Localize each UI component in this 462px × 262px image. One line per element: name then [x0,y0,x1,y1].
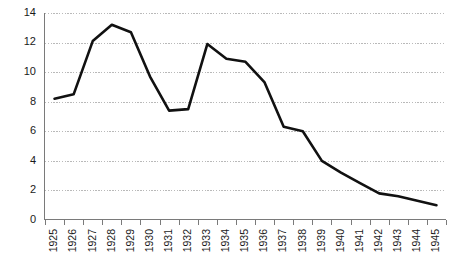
x-axis-tick-label: 1937 [276,229,288,253]
y-axis-tick-label: 14 [24,6,36,18]
x-axis-tick-label: 1941 [353,229,365,253]
y-axis-tick-label: 8 [30,95,36,107]
x-axis-tick-label: 1929 [124,229,136,253]
x-axis-tick-labels: 1925192619271928192919301931193219331934… [47,229,441,253]
x-axis-tick-label: 1943 [391,229,403,253]
x-axis-tick-label: 1926 [66,229,78,253]
x-axis-tick-label: 1945 [429,229,441,253]
y-axis-tick-label: 2 [30,183,36,195]
x-axis-tick-label: 1931 [162,229,174,253]
x-axis-tick-label: 1927 [86,229,98,253]
x-axis-tick-label: 1934 [219,229,231,253]
y-axis-tick-label: 6 [30,124,36,136]
x-axis-tick-label: 1936 [257,229,269,253]
x-axis-tick-label: 1935 [238,229,250,253]
x-axis-tick-marks [46,220,447,225]
y-axis-tick-label: 12 [24,35,36,47]
chart-canvas: 02468101214 1925192619271928192919301931… [0,0,462,262]
x-axis-tick-label: 1940 [334,229,346,253]
line-chart: 02468101214 1925192619271928192919301931… [0,0,462,262]
y-axis-tick-labels: 02468101214 [24,6,36,225]
x-axis-tick-label: 1942 [372,229,384,253]
x-axis-tick-label: 1928 [105,229,117,253]
y-axis-tick-label: 4 [30,154,36,166]
y-axis-tick-label: 10 [24,65,36,77]
y-axis-tick-label: 0 [30,213,36,225]
x-axis-tick-label: 1938 [296,229,308,253]
gridlines [45,14,445,191]
x-axis-tick-label: 1933 [200,229,212,253]
x-axis-tick-label: 1932 [181,229,193,253]
x-axis-tick-label: 1925 [47,229,59,253]
x-axis-tick-label: 1930 [143,229,155,253]
x-axis-tick-label: 1939 [315,229,327,253]
data-series-line [55,25,437,205]
x-axis-tick-label: 1944 [410,229,422,253]
